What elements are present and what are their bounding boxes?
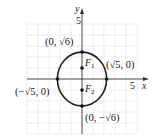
bottom-vertex-label: (0, −√6) bbox=[85, 112, 120, 124]
top-vertex-point bbox=[80, 50, 84, 54]
y-axis-arrow-icon bbox=[80, 8, 84, 14]
focus1-point bbox=[80, 66, 84, 70]
focus2-point bbox=[80, 88, 84, 92]
bottom-vertex-point bbox=[80, 104, 84, 108]
left-vertex-label: (−√5, 0) bbox=[15, 86, 50, 98]
left-vertex-point bbox=[56, 77, 60, 81]
top-vertex-label: (0, √6) bbox=[45, 36, 74, 48]
right-vertex-label: (√5, 0) bbox=[106, 59, 135, 71]
y-axis-label: y bbox=[74, 3, 80, 14]
y-tick-label: 5 bbox=[76, 15, 81, 26]
ellipse-graph: y 5 5 x (0, √6) (√5, 0) (−√5, 0) (0, −√6… bbox=[0, 0, 155, 138]
right-vertex-point bbox=[105, 77, 109, 81]
x-tick-label: 5 bbox=[130, 80, 135, 91]
focus2-label: F2 bbox=[84, 83, 95, 96]
x-axis-label: x bbox=[141, 80, 147, 91]
